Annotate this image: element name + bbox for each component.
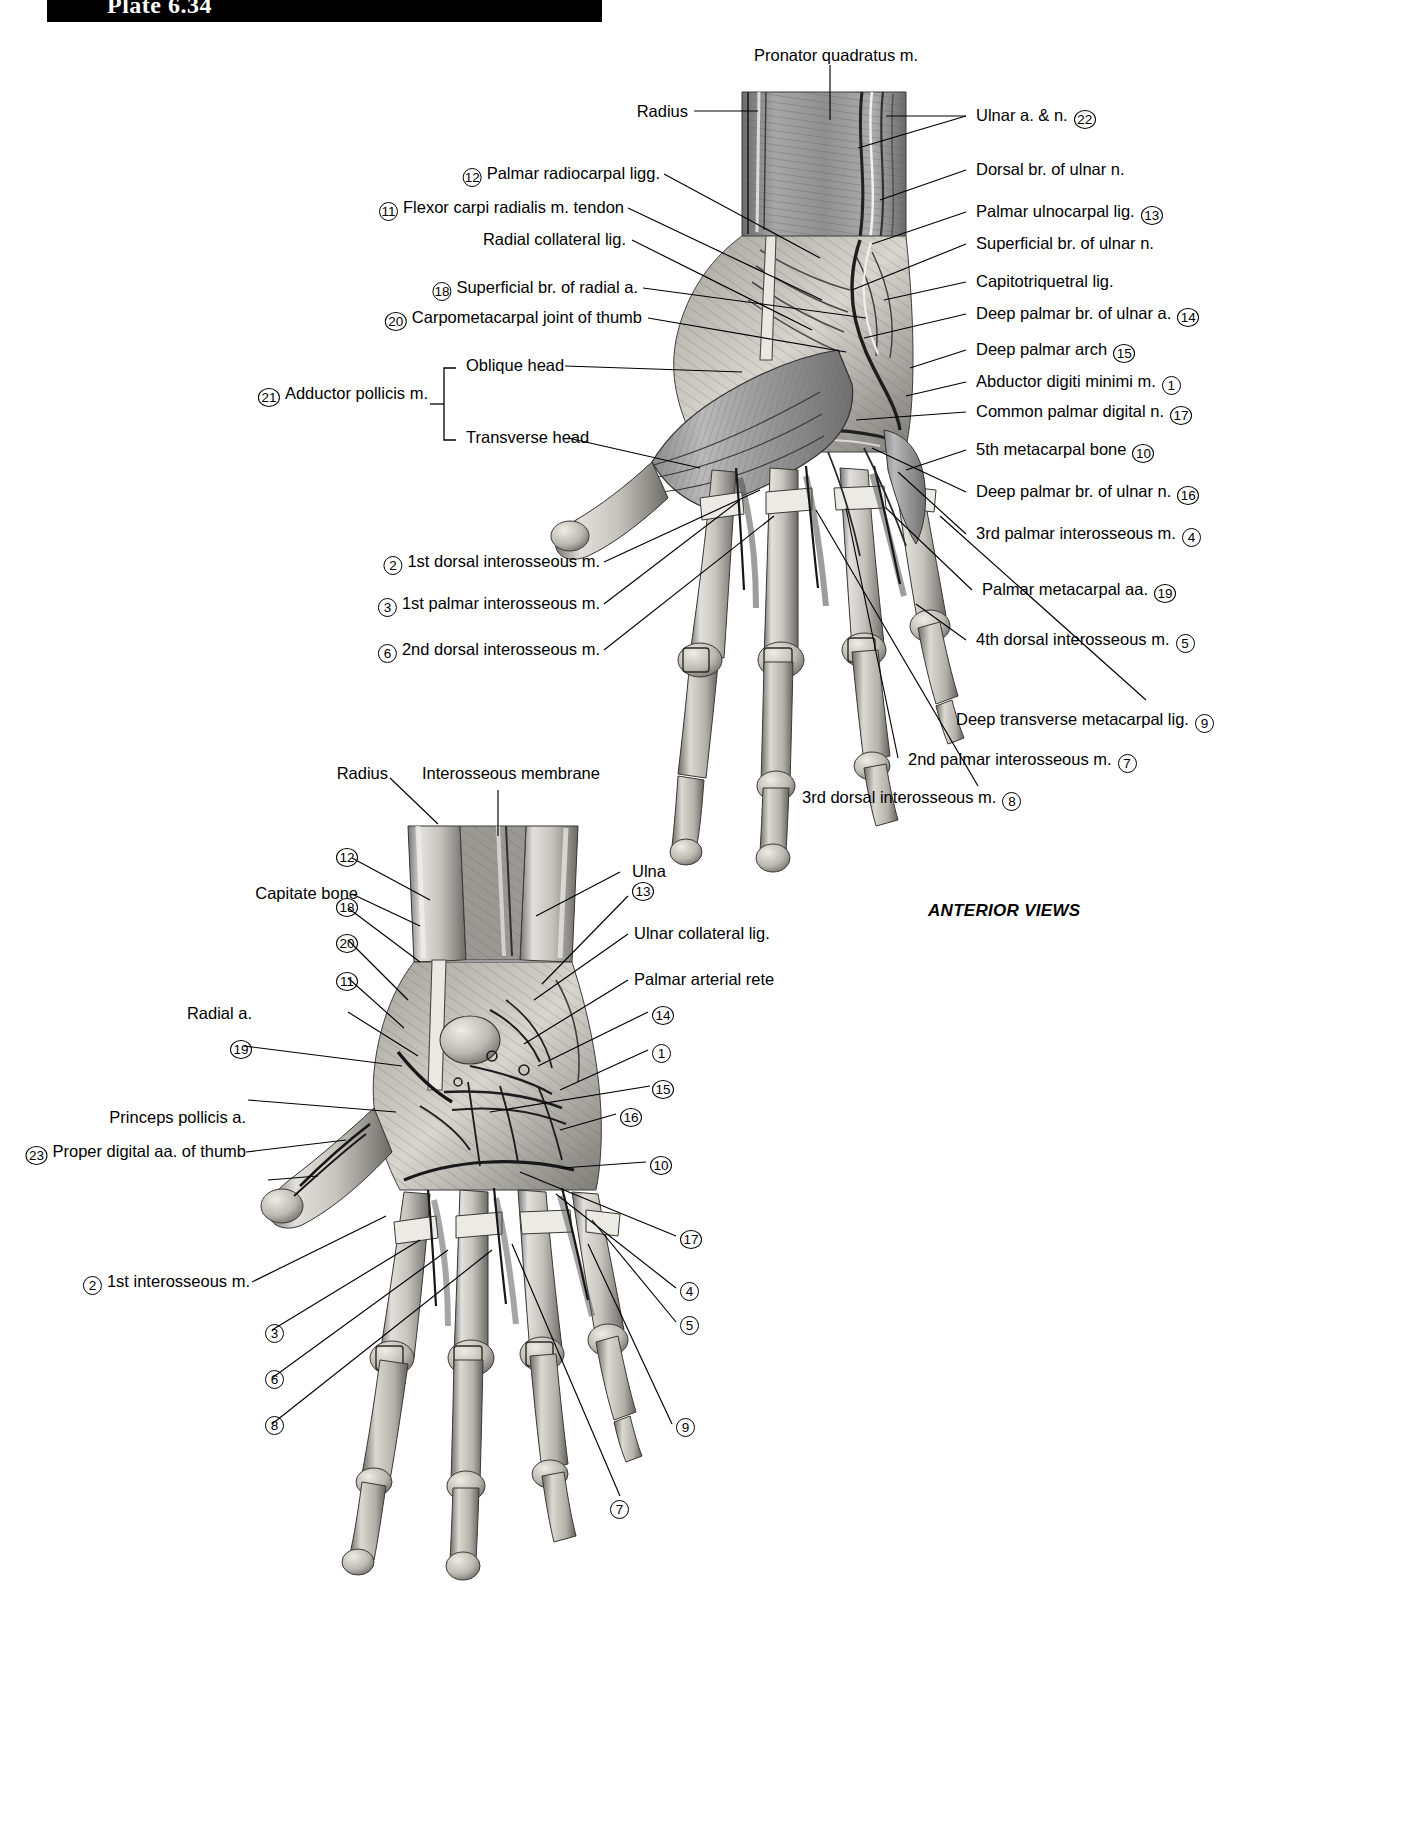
number-badge: 3 bbox=[265, 1324, 284, 1343]
label-superficial-br-ulnar-n: Superficial br. of ulnar n. bbox=[976, 234, 1154, 252]
number-badge: 12 bbox=[336, 848, 358, 867]
number-badge: 13 bbox=[632, 882, 654, 901]
label-proper-digital-aa-thumb: 23Proper digital aa. of thumb bbox=[25, 1142, 246, 1165]
number-badge: 1 bbox=[652, 1044, 671, 1063]
pronator-quadratus-muscle bbox=[742, 92, 906, 246]
number-badge: 7 bbox=[1118, 754, 1137, 773]
label-deep-palmar-br-ulnar-a: Deep palmar br. of ulnar a.14 bbox=[976, 304, 1199, 327]
number-badge: 1 bbox=[1162, 376, 1181, 395]
label-deep-transverse-metacarpal-lig: Deep transverse metacarpal lig.9 bbox=[956, 710, 1214, 733]
number-badge: 2 bbox=[383, 556, 402, 575]
number-badge: 12 bbox=[463, 168, 482, 187]
label-superficial-br-radial-a: 18Superficial br. of radial a. bbox=[432, 278, 638, 301]
label-6-bottom: 6 bbox=[265, 1366, 284, 1389]
adductor-pollicis-muscle bbox=[650, 350, 853, 508]
number-badge: 11 bbox=[336, 972, 358, 991]
label-deep-palmar-br-ulnar-n: Deep palmar br. of ulnar n.16 bbox=[976, 482, 1199, 505]
label-1st-interosseous-m: 21st interosseous m. bbox=[83, 1272, 250, 1295]
number-badge: 18 bbox=[432, 282, 451, 301]
label-13-bottom: 13 bbox=[632, 878, 654, 901]
number-badge: 3 bbox=[378, 598, 397, 617]
label-14-bottom: 14 bbox=[652, 1002, 674, 1025]
carpal-ligament-region bbox=[674, 236, 913, 462]
number-badge: 23 bbox=[25, 1146, 47, 1165]
label-1st-palmar-interosseous-top: 31st palmar interosseous m. bbox=[378, 594, 600, 617]
number-badge: 20 bbox=[336, 934, 358, 953]
label-3rd-dorsal-interosseous-top: 3rd dorsal interosseous m.8 bbox=[802, 788, 1021, 811]
label-18-bottom: 18 bbox=[336, 894, 358, 917]
label-19-bottom: 19 bbox=[230, 1036, 252, 1059]
number-badge: 15 bbox=[652, 1080, 674, 1099]
plate-header-label: Plate 6.34 bbox=[107, 0, 212, 19]
label-20-bottom: 20 bbox=[336, 930, 358, 953]
number-badge: 2 bbox=[83, 1276, 102, 1295]
number-badge: 7 bbox=[610, 1500, 629, 1519]
label-12-bottom: 12 bbox=[336, 844, 358, 867]
number-badge: 5 bbox=[680, 1316, 699, 1335]
number-badge: 8 bbox=[1002, 792, 1021, 811]
label-10-bottom: 10 bbox=[650, 1152, 672, 1175]
label-2nd-palmar-interosseous-top: 2nd palmar interosseous m.7 bbox=[908, 750, 1137, 773]
label-radial-a: Radial a. bbox=[187, 1004, 252, 1022]
number-badge: 13 bbox=[1141, 206, 1163, 225]
number-badge: 5 bbox=[1176, 634, 1195, 653]
label-palmar-ulnocarpal-lig: Palmar ulnocarpal lig.13 bbox=[976, 202, 1163, 225]
label-dorsal-br-ulnar-n: Dorsal br. of ulnar n. bbox=[976, 160, 1125, 178]
number-badge: 9 bbox=[676, 1418, 695, 1437]
thumb-bottom bbox=[261, 1108, 392, 1228]
number-badge: 20 bbox=[385, 312, 407, 331]
plate-page: Plate 6.34 bbox=[0, 0, 1416, 1821]
abductor-digiti-minimi-top bbox=[884, 430, 926, 544]
number-badge: 19 bbox=[1154, 584, 1176, 603]
label-9-bottom: 9 bbox=[676, 1414, 695, 1437]
label-oblique-head: Oblique head bbox=[466, 356, 564, 374]
label-common-palmar-digital-n: Common palmar digital n.17 bbox=[976, 402, 1192, 425]
number-badge: 6 bbox=[265, 1370, 284, 1389]
label-4th-dorsal-interosseous-top: 4th dorsal interosseous m.5 bbox=[976, 630, 1195, 653]
top-figure-artwork bbox=[0, 0, 1416, 1821]
label-5th-metacarpal-bone: 5th metacarpal bone10 bbox=[976, 440, 1154, 463]
number-badge: 16 bbox=[1177, 486, 1199, 505]
label-palmar-radiocarpal-ligg: 12Palmar radiocarpal ligg. bbox=[463, 164, 660, 187]
label-3-bottom: 3 bbox=[265, 1320, 284, 1343]
thumb-bones-top bbox=[551, 462, 668, 559]
number-badge: 8 bbox=[265, 1416, 284, 1435]
label-flexor-carpi-radialis-tendon: 11Flexor carpi radialis m. tendon bbox=[379, 198, 624, 221]
label-interosseous-membrane: Interosseous membrane bbox=[422, 764, 600, 782]
number-badge: 19 bbox=[230, 1040, 252, 1059]
label-ulnar-a-n: Ulnar a. & n.22 bbox=[976, 106, 1096, 129]
plate-header-bar: Plate 6.34 bbox=[47, 0, 602, 22]
number-badge: 6 bbox=[378, 644, 397, 663]
label-palmar-metacarpal-aa-top: Palmar metacarpal aa.19 bbox=[982, 580, 1176, 603]
label-17-bottom: 17 bbox=[680, 1226, 702, 1249]
label-4-bottom: 4 bbox=[680, 1278, 699, 1301]
label-princeps-pollicis-a: Princeps pollicis a. bbox=[109, 1108, 246, 1126]
label-deep-palmar-arch: Deep palmar arch15 bbox=[976, 340, 1135, 363]
anterior-views-caption: ANTERIOR VIEWS bbox=[928, 902, 1081, 920]
label-transverse-head: Transverse head bbox=[466, 428, 589, 446]
number-badge: 4 bbox=[680, 1282, 699, 1301]
label-ulnar-collateral-lig: Ulnar collateral lig. bbox=[634, 924, 770, 942]
label-16-bottom: 16 bbox=[620, 1104, 642, 1127]
label-abductor-digiti-minimi-top: Abductor digiti minimi m.1 bbox=[976, 372, 1181, 395]
number-badge: 14 bbox=[652, 1006, 674, 1025]
label-7-bottom: 7 bbox=[610, 1496, 629, 1519]
label-8-bottom: 8 bbox=[265, 1412, 284, 1435]
leader-lines bbox=[0, 0, 1416, 1821]
number-badge: 16 bbox=[620, 1108, 642, 1127]
label-capitotriquetral-lig: Capitotriquetral lig. bbox=[976, 272, 1114, 290]
number-badge: 9 bbox=[1195, 714, 1214, 733]
number-badge: 22 bbox=[1074, 110, 1096, 129]
number-badge: 15 bbox=[1113, 344, 1135, 363]
label-15-bottom: 15 bbox=[652, 1076, 674, 1099]
number-badge: 17 bbox=[680, 1230, 702, 1249]
label-adductor-pollicis: 21Adductor pollicis m. bbox=[258, 384, 428, 407]
carpal-region-bottom bbox=[373, 960, 601, 1190]
forearm-bones-bottom bbox=[408, 826, 578, 962]
label-11-bottom: 11 bbox=[336, 968, 358, 991]
label-radius-top: Radius bbox=[637, 102, 688, 120]
number-badge: 11 bbox=[379, 202, 398, 221]
label-radius-bottom: Radius bbox=[337, 764, 388, 782]
label-1st-dorsal-interosseous-top: 21st dorsal interosseous m. bbox=[383, 552, 600, 575]
bottom-figure-artwork bbox=[0, 0, 1416, 1821]
